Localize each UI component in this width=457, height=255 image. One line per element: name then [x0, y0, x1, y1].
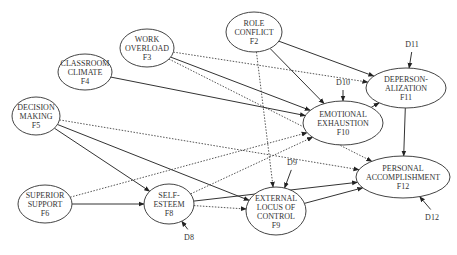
factor-label-line: F11 [400, 93, 412, 102]
factor-label-line: MAKING [20, 112, 53, 121]
disturbance-arrow-d9 [285, 170, 292, 188]
factor-label-line: F12 [397, 182, 409, 191]
path-f4-to-f10 [111, 77, 306, 116]
factor-label-line: DEPERSON- [384, 75, 428, 84]
factor-label-line: OVERLOAD [125, 44, 169, 53]
factor-f2: ROLECONFLICTF2 [226, 12, 282, 52]
factor-f3: WORKOVERLOADF3 [120, 29, 174, 67]
disturbance-d8: D8 [184, 233, 194, 242]
factor-f8: SELF-ESTEEMF8 [144, 184, 194, 224]
factor-label-line: EXTERNAL [255, 194, 297, 203]
factor-label-line: ALIZATION [385, 84, 427, 93]
factor-label-line: F3 [143, 53, 151, 62]
factor-label-line: DECISION [17, 103, 55, 112]
disturbance-arrow-d8 [182, 221, 188, 229]
factor-label-line: CONFLICT [234, 28, 273, 37]
factor-label-line: F2 [250, 37, 258, 46]
latent-factors: ROLECONFLICTF2WORKOVERLOADF3CLASSROOMCLI… [12, 12, 450, 235]
factor-f5: DECISIONMAKINGF5 [12, 97, 60, 135]
factor-f10: EMOTIONALEXHAUSTIONF10 [303, 101, 383, 145]
disturbance-d9: D9 [287, 158, 297, 167]
factor-label-line: WORK [135, 35, 160, 44]
factor-f4: CLASSROOMCLIMATEF4 [58, 54, 112, 90]
path-f8-to-f9 [194, 206, 246, 209]
disturbance-arrow-d11 [409, 52, 412, 68]
factor-label-line: ROLE [244, 19, 265, 28]
factor-label-line: EXHAUSTION [317, 119, 369, 128]
disturbance-d10: D10 [336, 78, 350, 87]
factor-label-line: SUPPORT [28, 200, 63, 209]
path-f2-to-f10 [270, 48, 324, 103]
path-f2-to-f9 [256, 52, 273, 187]
factor-label-line: ESTEEM [153, 200, 184, 209]
path-f9-to-f12 [304, 188, 362, 204]
factor-label-line: CLIMATE [68, 68, 103, 77]
factor-label-line: SELF- [158, 191, 180, 200]
path-f11-to-f12 [404, 108, 406, 156]
path-f10-to-f11 [371, 103, 379, 108]
factor-f9: EXTERNALLOCUS OFCONTROLF9 [246, 187, 306, 235]
factor-label-line: F9 [272, 221, 280, 230]
factor-label-line: PERSONAL [382, 164, 423, 173]
factor-label-line: ACCOMPLISHMENT [366, 173, 440, 182]
disturbance-d12: D12 [425, 213, 439, 222]
path-diagram: ROLECONFLICTF2WORKOVERLOADF3CLASSROOMCLI… [0, 0, 457, 255]
factor-f11: DEPERSON-ALIZATIONF11 [366, 68, 446, 108]
disturbance-arrow-d12 [420, 197, 431, 210]
factor-label-line: F4 [81, 77, 89, 86]
factor-label-line: LOCUS OF [257, 203, 296, 212]
factor-label-line: CONTROL [257, 212, 295, 221]
factor-label-line: CLASSROOM [61, 59, 110, 68]
factor-label-line: F5 [32, 121, 40, 130]
factor-label-line: SUPERIOR [26, 191, 65, 200]
factor-f6: SUPERIORSUPPORTF6 [18, 185, 72, 223]
disturbance-d11: D11 [405, 40, 418, 49]
factor-label-line: F6 [41, 209, 49, 218]
factor-label-line: F8 [165, 209, 173, 218]
factor-label-line: F10 [337, 128, 349, 137]
path-f5-to-f8 [54, 128, 149, 191]
factor-f12: PERSONALACCOMPLISHMENTF12 [356, 156, 450, 198]
factor-label-line: EMOTIONAL [319, 110, 367, 119]
